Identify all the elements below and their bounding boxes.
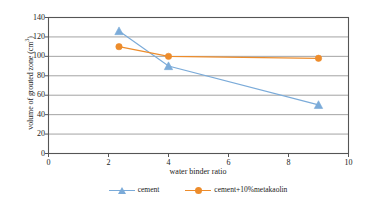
- x-axis-tick-label: 8: [279, 159, 299, 167]
- x-axis-tick-label: 4: [159, 159, 179, 167]
- x-axis-tick-label: 0: [39, 159, 59, 167]
- chart-figure: volume of grouted zone (cm3) 02040608010…: [0, 0, 369, 200]
- x-axis-tick-label: 6: [219, 159, 239, 167]
- legend-marker: [118, 187, 126, 194]
- legend-circle-marker-icon: [185, 186, 211, 195]
- legend-label: cement: [138, 185, 160, 195]
- legend-triangle-marker-icon: [109, 186, 135, 195]
- x-axis-label: water binder ratio: [48, 167, 348, 177]
- chart-legend: cementcement+10%metakaolin: [48, 183, 348, 197]
- legend-label: cement+10%metakaolin: [214, 185, 287, 195]
- x-axis-tick-label: 2: [99, 159, 119, 167]
- legend-item-cement[interactable]: cement: [109, 185, 160, 195]
- legend-marker: [195, 187, 202, 194]
- x-axis-tick-label: 10: [339, 159, 359, 167]
- legend-item-cement-metakaolin[interactable]: cement+10%metakaolin: [185, 185, 287, 195]
